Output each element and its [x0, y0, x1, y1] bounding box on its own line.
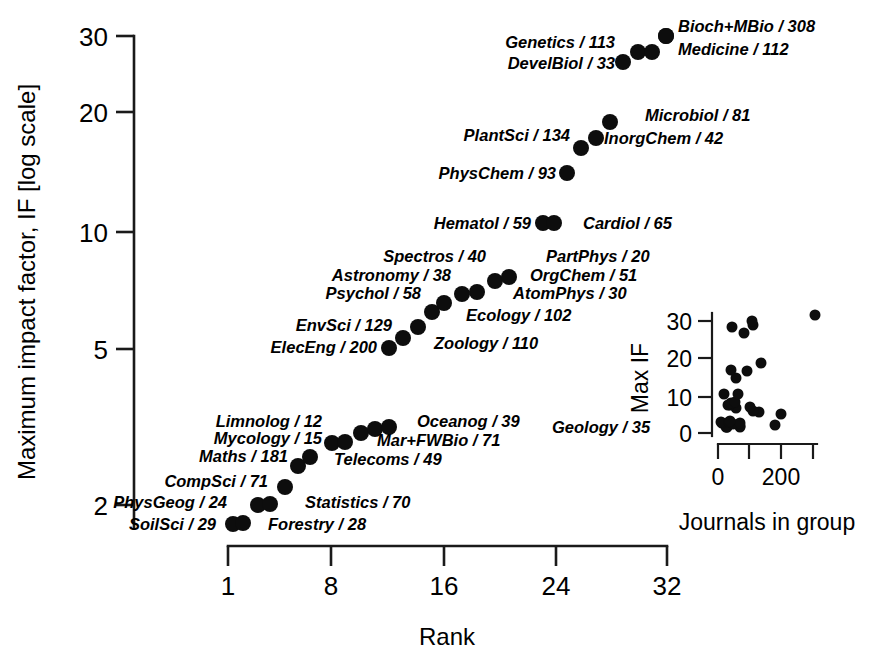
point-label-ecology: Ecology / 102	[466, 306, 571, 324]
data-point-spectros	[487, 273, 503, 289]
inset-point-medicine	[747, 316, 758, 327]
point-label-cardiol: Cardiol / 65	[583, 214, 673, 232]
point-label-spectros: Spectros / 40	[383, 247, 487, 265]
inset-point-microbiol	[739, 328, 750, 339]
data-point-telecoms	[302, 449, 318, 465]
main-y-tick-label-30: 30	[79, 22, 108, 52]
main-x-axis-title: Rank	[419, 623, 476, 650]
inset-data-points	[716, 310, 821, 433]
point-label-astronomy: Astronomy / 38	[331, 266, 452, 284]
main-x-axis: 1 8 16 24 32 Rank	[221, 546, 682, 650]
main-y-tick-label-10: 10	[79, 218, 108, 248]
data-point-atomphys	[469, 284, 485, 300]
inset-y-axis-title: Max IF	[627, 343, 653, 413]
inset-x-tick-label-0: 0	[712, 464, 725, 490]
point-label-inorgchem: InorgChem / 42	[604, 129, 723, 147]
data-point-statistics	[262, 496, 278, 512]
main-y-tick-label-2: 2	[94, 491, 108, 521]
inset-y-tick-label-0: 0	[679, 421, 692, 447]
chart-canvas: 30 20 10 5 2 Maximum impact factor, IF […	[0, 0, 888, 658]
data-point-develbiol	[630, 44, 646, 60]
impact-factor-scatter-figure: 30 20 10 5 2 Maximum impact factor, IF […	[0, 0, 888, 658]
data-point-zoology	[410, 319, 426, 335]
main-x-tick-label-1: 1	[221, 571, 235, 601]
main-x-tick-label-16: 16	[430, 571, 459, 601]
point-label-forestry: Forestry / 28	[268, 515, 367, 533]
inset-x-axis-title: Journals in group	[679, 509, 855, 535]
point-label-eleceng: ElecEng / 200	[271, 338, 378, 356]
point-label-medicine: Medicine / 112	[678, 40, 789, 58]
inset-point-cardiol	[733, 389, 744, 400]
data-point-cardiol	[546, 215, 562, 231]
point-label-partphys: PartPhys / 20	[546, 247, 650, 265]
inset-point-biochmbio	[810, 310, 821, 321]
inset-x-axis: 0 200 Journals in group	[679, 444, 855, 535]
point-label-envsci: EnvSci / 129	[296, 316, 393, 334]
point-label-plantsci: PlantSci / 134	[464, 126, 570, 144]
point-label-zoology: Zoology / 110	[433, 334, 539, 352]
point-label-hematol: Hematol / 59	[434, 214, 532, 232]
inset-y-tick-label-20: 20	[666, 346, 692, 372]
main-x-tick-label-24: 24	[542, 571, 571, 601]
point-label-statistics: Statistics / 70	[305, 493, 411, 511]
main-x-tick-label-32: 32	[653, 571, 682, 601]
inset-point-marfwbio	[735, 418, 746, 429]
inset-y-tick-label-30: 30	[666, 309, 692, 335]
data-point-hematol	[559, 165, 575, 181]
inset-point-oceanog	[725, 416, 736, 427]
point-label-genetics: Genetics / 113	[505, 33, 615, 51]
point-label-geology: Geology / 35	[552, 418, 651, 436]
data-point-compsci	[277, 479, 293, 495]
point-label-atomphys: AtomPhys / 30	[512, 284, 628, 302]
data-point-physchem	[573, 140, 589, 156]
point-label-marfwbio: Mar+FWBio / 71	[377, 431, 500, 449]
inset-point-develbiol	[727, 322, 738, 333]
inset-point-partphys	[719, 389, 730, 400]
point-label-mycology: Mycology / 15	[214, 429, 323, 447]
point-label-biochmbio: Bioch+MBio / 308	[678, 17, 816, 35]
data-point-marfwbio	[337, 434, 353, 450]
data-point-envsci	[395, 330, 411, 346]
point-label-microbiol: Microbiol / 81	[645, 106, 750, 124]
main-y-tick-label-20: 20	[79, 98, 108, 128]
data-point-eleceng	[381, 340, 397, 356]
main-point-labels: Bioch+MBio / 308 Medicine / 112 Genetics…	[113, 17, 816, 533]
data-point-orgchem	[501, 269, 517, 285]
main-y-axis-title: Maximum impact factor, IF [log scale]	[13, 84, 40, 480]
inset-point-eleceng	[776, 409, 787, 420]
point-label-develbiol: DevelBiol / 33	[508, 54, 615, 72]
point-label-psychol: Psychol / 58	[326, 284, 422, 302]
inset-point-physchem	[742, 366, 753, 377]
data-point-inorgchem	[588, 130, 604, 146]
point-label-soilsci: SoilSci / 29	[129, 515, 217, 533]
inset-point-inorgchem	[726, 365, 737, 376]
data-point-plantsci	[602, 114, 618, 130]
inset-point-plantsci	[756, 358, 767, 369]
point-label-physgeog: PhysGeog / 24	[113, 493, 227, 511]
main-y-tick-label-5: 5	[94, 335, 108, 365]
data-point-limnolog	[353, 425, 369, 441]
point-label-physchem: PhysChem / 93	[439, 164, 556, 182]
point-label-limnolog: Limnolog / 12	[216, 412, 322, 430]
data-point-microbiol	[615, 54, 631, 70]
inset-point-ecology	[745, 402, 756, 413]
data-point-forestry	[235, 515, 251, 531]
point-label-orgchem: OrgChem / 51	[530, 266, 637, 284]
main-y-axis: 30 20 10 5 2 Maximum impact factor, IF […	[13, 22, 134, 528]
point-label-compsci: CompSci / 71	[164, 472, 268, 490]
data-point-genetics	[644, 44, 660, 60]
data-point-astronomy	[454, 286, 470, 302]
inset-point-maths	[770, 420, 781, 431]
inset-chart: 30 20 10 0 Max IF 0 200 Journals in grou…	[627, 309, 855, 535]
data-point-ecology	[436, 295, 452, 311]
point-label-maths: Maths / 181	[199, 447, 288, 465]
inset-y-tick-label-10: 10	[666, 385, 692, 411]
inset-x-tick-label-200: 200	[762, 464, 800, 490]
data-point-biochmbio	[658, 28, 674, 44]
main-x-tick-label-8: 8	[324, 571, 338, 601]
point-label-telecoms: Telecoms / 49	[334, 450, 442, 468]
point-label-oceanog: Oceanog / 39	[417, 412, 521, 430]
